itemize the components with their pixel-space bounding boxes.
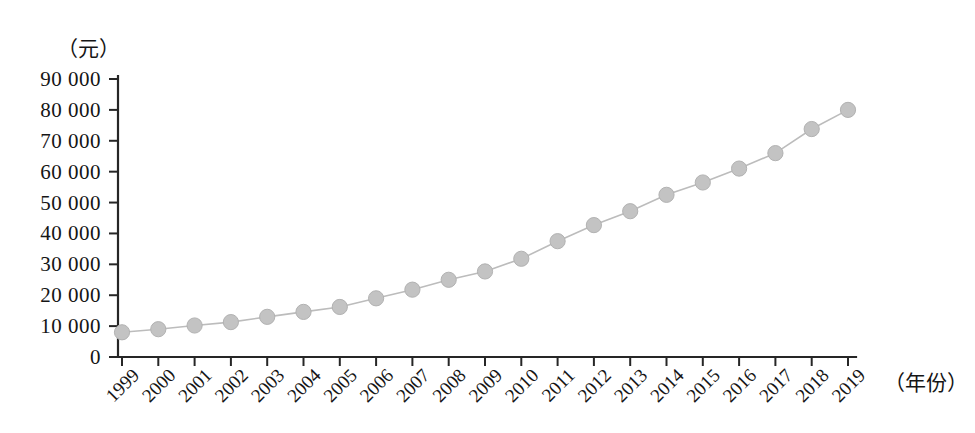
x-tick-label: 2008 [428, 364, 470, 406]
data-point-marker [550, 234, 565, 249]
x-axis-unit-label: （年份） [884, 371, 968, 395]
x-tick-label: 1999 [101, 364, 143, 406]
data-point-marker [840, 102, 855, 117]
y-axis-unit-label: （元） [57, 37, 120, 61]
data-point-marker [223, 315, 238, 330]
x-tick-label: 2002 [210, 364, 252, 406]
y-tick-label: 70 000 [40, 129, 101, 153]
x-tick-label: 2005 [319, 364, 361, 406]
data-point-marker [514, 251, 529, 266]
x-tick-label: 2007 [392, 364, 434, 406]
x-tick-label: 2012 [573, 364, 615, 406]
x-axis: 1999200020012002200320042005200620072008… [101, 357, 869, 406]
data-point-marker [369, 291, 384, 306]
data-point-marker [405, 282, 420, 297]
x-tick-label: 2003 [247, 364, 289, 406]
line-chart: 010 00020 00030 00040 00050 00060 00070 … [0, 0, 975, 433]
x-tick-label: 2001 [174, 364, 216, 406]
data-point-marker [623, 204, 638, 219]
data-point-marker [768, 146, 783, 161]
x-tick-label: 2009 [464, 364, 506, 406]
x-tick-label: 2000 [138, 364, 180, 406]
x-tick-label: 2015 [682, 364, 724, 406]
x-tick-label: 2006 [356, 364, 398, 406]
y-tick-label: 90 000 [40, 67, 101, 91]
x-tick-label: 2004 [283, 364, 325, 406]
data-point-marker [804, 121, 819, 136]
x-tick-label: 2010 [501, 364, 543, 406]
data-point-marker [441, 272, 456, 287]
y-tick-label: 20 000 [40, 283, 101, 307]
y-tick-label: 0 [90, 345, 101, 369]
y-tick-label: 40 000 [40, 221, 101, 245]
data-point-marker [586, 218, 601, 233]
y-tick-label: 50 000 [40, 191, 101, 215]
y-tick-label: 60 000 [40, 160, 101, 184]
data-series [114, 102, 855, 340]
data-point-marker [477, 264, 492, 279]
x-tick-label: 2019 [827, 364, 869, 406]
y-tick-label: 10 000 [40, 314, 101, 338]
x-tick-label: 2013 [610, 364, 652, 406]
y-axis: 010 00020 00030 00040 00050 00060 00070 … [40, 67, 118, 369]
chart-page: 010 00020 00030 00040 00050 00060 00070 … [0, 0, 975, 433]
x-tick-label: 2018 [791, 364, 833, 406]
x-tick-label: 2016 [719, 364, 761, 406]
series-line [122, 110, 848, 332]
data-point-marker [114, 325, 129, 340]
data-point-marker [151, 322, 166, 337]
data-point-marker [695, 175, 710, 190]
data-point-marker [659, 187, 674, 202]
x-tick-label: 2011 [538, 364, 579, 405]
x-tick-label: 2014 [646, 364, 688, 406]
y-tick-label: 30 000 [40, 252, 101, 276]
y-tick-label: 80 000 [40, 98, 101, 122]
data-point-marker [187, 318, 202, 333]
data-point-marker [260, 309, 275, 324]
data-point-marker [732, 161, 747, 176]
data-point-marker [296, 304, 311, 319]
data-point-marker [332, 299, 347, 314]
x-tick-label: 2017 [755, 364, 797, 406]
